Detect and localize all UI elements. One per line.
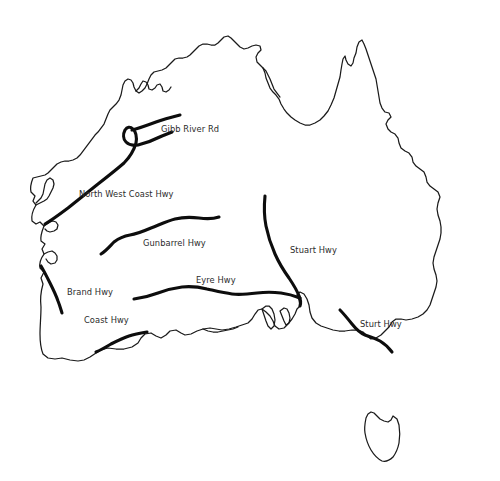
label-coast-hwy: Coast Hwy (84, 316, 129, 324)
label-gibb-river-rd: Gibb River Rd (161, 125, 219, 133)
highway-north-west-coast-hwy[interactable] (45, 127, 172, 224)
label-eyre-hwy: Eyre Hwy (196, 276, 236, 284)
highway-brand-hwy[interactable] (41, 266, 62, 313)
map-canvas (0, 0, 500, 481)
coastline-kimberley-bays (136, 81, 171, 92)
highway-gunbarrel-hwy[interactable] (101, 217, 219, 254)
coastline-tasmania (365, 412, 400, 461)
highway-eyre-hwy[interactable] (134, 287, 300, 299)
coastline-st-vincent-gulf (280, 308, 290, 325)
label-north-west-coast-hwy: North West Coast Hwy (79, 190, 174, 198)
label-sturt-hwy: Sturt Hwy (360, 320, 402, 328)
coastline-west-spur (44, 251, 57, 264)
coastline-spencer-gulf (262, 306, 275, 329)
australia-highways-map: Gibb River Rd North West Coast Hwy Gunba… (0, 0, 500, 481)
label-stuart-hwy: Stuart Hwy (290, 246, 337, 254)
coastline-carpentaria-detail (263, 68, 280, 97)
label-brand-hwy: Brand Hwy (67, 288, 113, 296)
coastline-west-inlets (36, 178, 54, 205)
label-gunbarrel-hwy: Gunbarrel Hwy (143, 239, 206, 247)
